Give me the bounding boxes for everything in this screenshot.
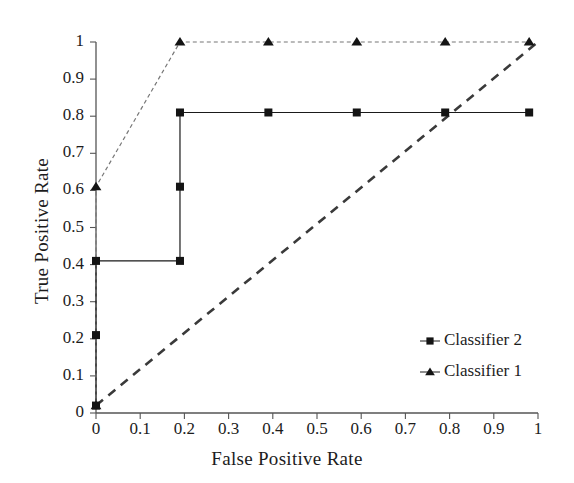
data-point-classifier-2	[176, 108, 184, 116]
data-point-classifier-1	[263, 37, 274, 46]
data-point-classifier-2	[353, 108, 361, 116]
x-tick-label: 0.4	[251, 419, 295, 439]
y-tick-label: 0.6	[34, 179, 84, 199]
data-point-classifier-1	[91, 182, 102, 191]
chance-diagonal	[96, 42, 538, 406]
data-point-classifier-2	[92, 331, 100, 339]
data-point-classifier-2	[525, 108, 533, 116]
x-tick-label: 0.6	[339, 419, 383, 439]
x-tick-label: 0.5	[295, 419, 339, 439]
legend-label-classifier-2: Classifier 2	[444, 330, 522, 350]
legend-markers	[420, 337, 440, 375]
legend-label-classifier-1: Classifier 1	[444, 361, 522, 381]
y-tick-label: 1	[34, 31, 84, 51]
y-tick-label: 0.5	[34, 217, 84, 237]
chance-diagonal-line	[96, 42, 538, 406]
roc-curve-figure: False Positive Rate True Positive Rate 0…	[0, 0, 574, 483]
data-point-classifier-2	[176, 257, 184, 265]
y-tick-label: 0.9	[34, 68, 84, 88]
y-tick-label: 0.7	[34, 142, 84, 162]
data-point-classifier-2	[92, 257, 100, 265]
x-axis-title: False Positive Rate	[0, 448, 574, 470]
x-tick-label: 0.7	[383, 419, 427, 439]
data-point-classifier-1	[440, 37, 451, 46]
legend-marker-triangle	[425, 368, 435, 376]
y-tick-label: 0.3	[34, 291, 84, 311]
y-tick-label: 0	[34, 402, 84, 422]
data-point-classifier-1	[524, 37, 535, 46]
x-tick-label: 0.3	[207, 419, 251, 439]
x-tick-label: 0.1	[118, 419, 162, 439]
x-tick-label: 0.9	[472, 419, 516, 439]
data-point-classifier-1	[351, 37, 362, 46]
y-tick-label: 0.4	[34, 254, 84, 274]
x-tick-label: 0	[74, 419, 118, 439]
x-tick-label: 0.8	[428, 419, 472, 439]
x-tick-label: 1	[516, 419, 560, 439]
data-point-classifier-2	[176, 183, 184, 191]
y-tick-label: 0.1	[34, 365, 84, 385]
data-point-classifier-1	[175, 37, 186, 46]
y-tick-label: 0.8	[34, 105, 84, 125]
x-tick-label: 0.2	[162, 419, 206, 439]
data-point-classifier-2	[441, 108, 449, 116]
legend-marker-square	[426, 337, 433, 344]
data-point-classifier-2	[264, 108, 272, 116]
chart-plot-area	[0, 0, 574, 483]
y-tick-label: 0.2	[34, 328, 84, 348]
